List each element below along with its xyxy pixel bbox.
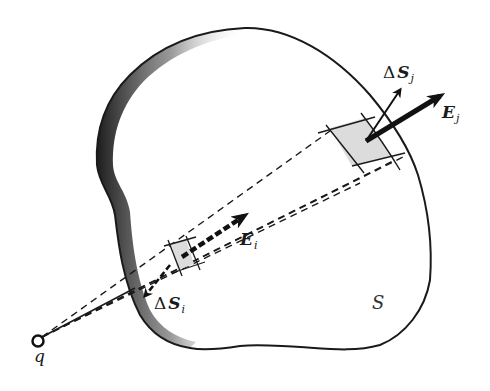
label-delta-s-i: ΔSi — [154, 293, 185, 316]
subscript: j — [411, 72, 414, 85]
point-charge — [33, 336, 44, 347]
subscript: i — [254, 239, 258, 252]
label-charge-q: q — [34, 346, 45, 366]
delta-symbol: Δ — [154, 293, 166, 313]
label-e-j: Ej — [442, 102, 459, 125]
label-delta-s-j: ΔSj — [383, 62, 414, 85]
area-vector-symbol: S — [168, 293, 180, 313]
field-vector-symbol: E — [240, 229, 253, 249]
subscript: i — [182, 303, 186, 316]
label-surface-s: S — [372, 292, 384, 313]
subscript: j — [456, 112, 459, 125]
field-vector-symbol: E — [442, 102, 455, 122]
patch-j — [318, 113, 405, 173]
central-ray — [42, 288, 135, 337]
gauss-diagram — [0, 0, 490, 391]
label-e-i: Ei — [240, 229, 258, 252]
vector-e-i — [182, 216, 244, 257]
area-vector-symbol: S — [397, 62, 409, 82]
vector-delta-s-i — [145, 265, 170, 296]
delta-symbol: Δ — [383, 62, 395, 82]
